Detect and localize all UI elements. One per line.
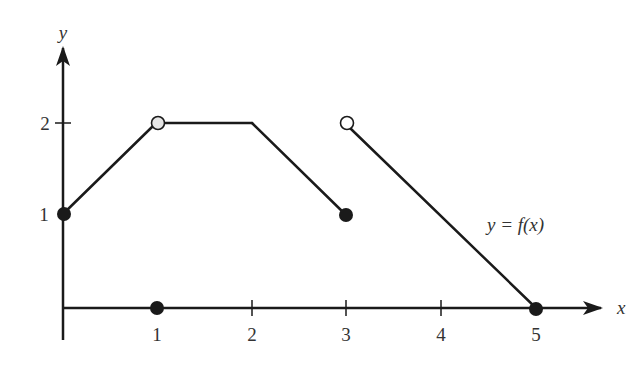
x-tick-label-3: 3 (341, 324, 351, 345)
y-axis-label: y (57, 22, 68, 43)
closed-point-0-1 (57, 207, 71, 221)
function-curve (63, 123, 536, 308)
closed-point-5-0 (529, 302, 543, 316)
x-tick-label-4: 4 (436, 324, 446, 345)
y-tick-label-2: 2 (40, 113, 50, 134)
closed-points (57, 207, 543, 316)
function-label: y = f(x) (485, 214, 544, 236)
y-tick-label-1: 1 (39, 204, 49, 225)
segment-2-3 (252, 123, 346, 215)
x-axis-label: x (616, 297, 626, 318)
closed-point-3-1 (339, 208, 353, 222)
x-tick-label-2: 2 (247, 324, 257, 345)
segment-0-1 (63, 127, 152, 214)
closed-point-1-0 (150, 301, 164, 315)
open-point-3-2 (341, 117, 354, 130)
x-tick-label-1: 1 (152, 324, 162, 345)
open-point-1-2 (152, 117, 165, 130)
function-graph: 1 2 3 4 5 1 2 x y y = f(x) (0, 0, 644, 366)
x-tick-label-5: 5 (531, 324, 541, 345)
